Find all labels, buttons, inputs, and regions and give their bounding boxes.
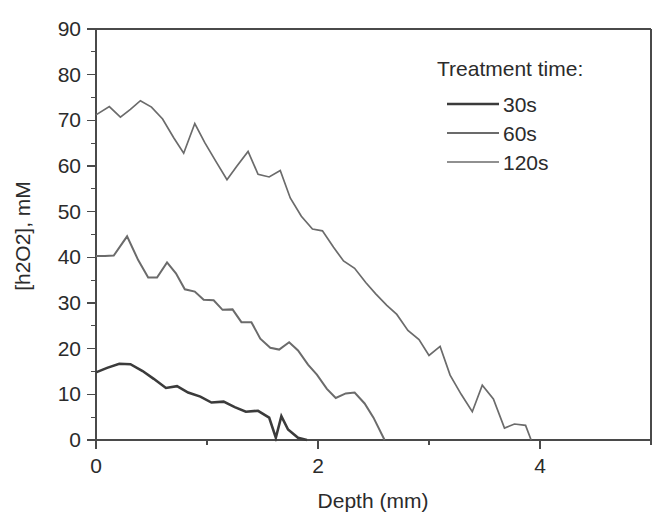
data-series-group <box>96 101 531 440</box>
y-axis-ticks <box>87 29 96 440</box>
series-line-30s <box>96 364 307 440</box>
chart-legend: Treatment time: 30s60s120s <box>437 57 583 174</box>
x-tick-label: 2 <box>312 454 324 477</box>
y-tick-label: 10 <box>58 382 81 405</box>
y-axis-title: [h2O2], mM <box>11 181 34 291</box>
legend-label-60s: 60s <box>503 122 537 145</box>
chart-figure: 0102030405060708090 024 Depth (mm) [h2O2… <box>0 0 668 526</box>
x-axis-title: Depth (mm) <box>318 489 429 512</box>
y-tick-label: 60 <box>58 154 81 177</box>
y-tick-label: 40 <box>58 245 81 268</box>
y-tick-label: 80 <box>58 63 81 86</box>
x-axis-ticks <box>96 440 651 449</box>
legend-label-120s: 120s <box>503 151 549 174</box>
x-axis-tick-labels: 024 <box>90 454 546 477</box>
legend-title: Treatment time: <box>437 57 583 80</box>
x-tick-label: 0 <box>90 454 102 477</box>
line-chart-svg: 0102030405060708090 024 Depth (mm) [h2O2… <box>0 0 668 526</box>
y-tick-label: 20 <box>58 337 81 360</box>
axes-frame <box>96 29 651 440</box>
y-tick-label: 70 <box>58 108 81 131</box>
y-tick-label: 30 <box>58 291 81 314</box>
y-tick-label: 90 <box>58 17 81 40</box>
y-tick-label: 0 <box>69 428 81 451</box>
legend-label-30s: 30s <box>503 93 537 116</box>
x-tick-label: 4 <box>534 454 546 477</box>
y-axis-tick-labels: 0102030405060708090 <box>58 17 81 451</box>
y-tick-label: 50 <box>58 200 81 223</box>
